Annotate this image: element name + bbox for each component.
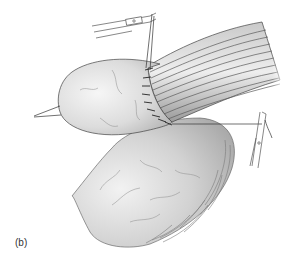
traction-sutures [34, 106, 61, 117]
surgical-illustration [0, 0, 286, 269]
fibrous-tube [148, 15, 286, 122]
lower-organ-body [72, 118, 234, 247]
panel-label: (b) [15, 237, 27, 248]
